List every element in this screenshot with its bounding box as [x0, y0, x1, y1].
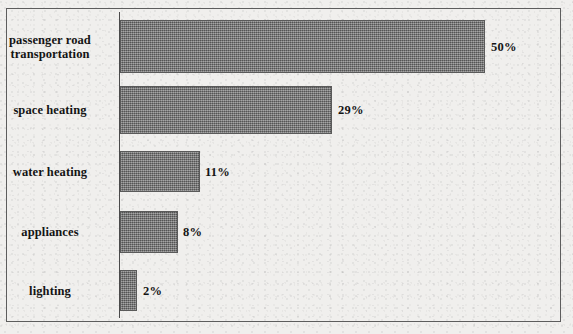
bar-category-label-line1: passenger road — [0, 33, 115, 47]
bar-category-label: passenger road transportation — [0, 33, 115, 61]
bar-row: lighting 2% — [0, 270, 573, 311]
bar-row: passenger road transportation 50% — [0, 20, 573, 73]
bar-row: water heating 11% — [0, 151, 573, 192]
bar-row: appliances 8% — [0, 211, 573, 253]
bar-value-label: 8% — [183, 225, 202, 240]
bar-category-label: lighting — [0, 284, 115, 298]
bar-rect — [120, 20, 485, 73]
bar-value-label: 29% — [338, 103, 364, 118]
bar-category-label-line1: space heating — [0, 103, 115, 117]
bar-category-label: space heating — [0, 103, 115, 117]
bar-category-label: appliances — [0, 225, 115, 239]
bar-rect — [120, 151, 200, 192]
bar-rect — [120, 211, 178, 253]
bar-rect — [120, 86, 332, 134]
bar-chart-figure: passenger road transportation 50% space … — [0, 0, 573, 334]
bar-value-label: 2% — [143, 283, 162, 298]
bar-row: space heating 29% — [0, 86, 573, 134]
plot-area: passenger road transportation 50% space … — [0, 0, 573, 334]
bar-category-label: water heating — [0, 165, 115, 179]
bar-category-label-line1: water heating — [0, 165, 115, 179]
bar-category-label-line1: appliances — [0, 225, 115, 239]
bar-category-label-line1: lighting — [0, 284, 115, 298]
bar-category-label-line2: transportation — [0, 47, 115, 61]
bar-value-label: 11% — [205, 164, 230, 179]
bar-rect — [120, 270, 137, 311]
bar-value-label: 50% — [491, 39, 517, 54]
